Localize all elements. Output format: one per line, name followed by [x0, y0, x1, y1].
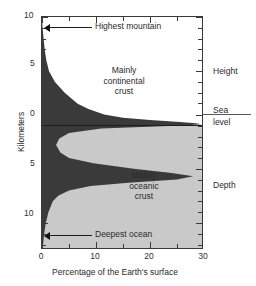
- y-tick-label-5-down: 5: [30, 159, 35, 168]
- height-region-label: Height: [213, 66, 238, 76]
- y-tick-right-minor: [198, 137, 202, 138]
- y-tick-minor: [42, 180, 46, 181]
- hypsometric-curve-figure: 10 5 0 5 10 Kilometers: [0, 0, 256, 286]
- x-tick-minor: [69, 244, 70, 248]
- y-tick-minor: [42, 158, 46, 159]
- annotation-leader-line: [49, 27, 92, 28]
- highest-mountain-label: Highest mountain: [95, 21, 161, 31]
- plot-area: Mainly continental crust Mainly oceanic …: [41, 16, 203, 249]
- x-axis-label: Percentage of the Earth's surface: [52, 267, 178, 277]
- highest-mountain-annotation: Highest mountain: [44, 23, 194, 32]
- y-tick-minor: [42, 82, 46, 83]
- y-tick-right-minor: [198, 60, 202, 61]
- x-tick-minor: [123, 244, 124, 248]
- y-tick-right-minor: [198, 103, 202, 104]
- y-tick-label-10-up: 10: [24, 11, 33, 20]
- y-tick-right-major: [196, 169, 202, 170]
- y-tick-right-minor: [198, 82, 202, 83]
- y-tick-right-major: [196, 71, 202, 72]
- oceanic-crust-label: Mainly oceanic crust: [103, 170, 185, 202]
- x-tick-top-minor: [69, 17, 70, 21]
- y-axis-label: Kilometers: [16, 112, 26, 152]
- y-tick-right-minor: [198, 180, 202, 181]
- x-tick-minor: [177, 244, 178, 248]
- x-tick-major-0: [42, 242, 43, 248]
- x-tick-top-minor: [177, 17, 178, 21]
- y-tick-minor: [42, 201, 46, 202]
- y-tick-right-minor: [198, 201, 202, 202]
- y-tick-right-minor: [198, 245, 202, 246]
- y-tick-major-5down: [42, 169, 48, 170]
- y-tick-right-minor: [198, 93, 202, 94]
- y-tick-minor: [42, 60, 46, 61]
- deepest-ocean-label: Deepest ocean: [95, 229, 152, 239]
- y-tick-right-minor: [198, 49, 202, 50]
- y-tick-major-0: [42, 115, 48, 116]
- x-tick-top-major: [203, 17, 204, 23]
- y-tick-right-major: [196, 17, 202, 18]
- y-tick-minor: [42, 212, 46, 213]
- y-tick-minor: [42, 147, 46, 148]
- sea-level-label-line1: Sea: [213, 105, 228, 115]
- y-tick-minor: [42, 137, 46, 138]
- x-tick-major-30: [203, 242, 204, 248]
- y-tick-minor: [42, 191, 46, 192]
- deepest-ocean-annotation: Deepest ocean: [44, 231, 194, 240]
- y-tick-right-minor: [198, 126, 202, 127]
- x-tick-major-20: [150, 242, 151, 248]
- y-tick-label-10-down: 10: [24, 209, 33, 218]
- sea-level-line-inner: [42, 125, 202, 126]
- x-tick-label-10: 10: [87, 252, 103, 261]
- hypsometric-curve-fill: [42, 17, 203, 249]
- y-tick-right-minor: [198, 158, 202, 159]
- y-tick-minor: [42, 93, 46, 94]
- sea-level-label-line2: level: [213, 117, 230, 127]
- x-tick-major-10: [96, 242, 97, 248]
- x-tick-label-30: 30: [195, 252, 211, 261]
- y-tick-right-minor: [198, 234, 202, 235]
- x-tick-label-0: 0: [34, 252, 48, 261]
- y-tick-minor: [42, 103, 46, 104]
- y-tick-minor: [42, 49, 46, 50]
- y-tick-right-minor: [198, 39, 202, 40]
- y-tick-right-minor: [198, 28, 202, 29]
- y-tick-minor: [42, 39, 46, 40]
- annotation-leader-line: [49, 235, 92, 236]
- x-tick-label-20: 20: [141, 252, 157, 261]
- y-tick-major-5up: [42, 71, 48, 72]
- y-tick-major-10down: [42, 223, 48, 224]
- continental-crust-label: Mainly continental crust: [83, 65, 165, 97]
- y-tick-right-major: [196, 223, 202, 224]
- y-tick-right-major: [196, 115, 202, 116]
- y-tick-label-5-up: 5: [30, 59, 35, 68]
- x-tick-top-major: [42, 17, 43, 23]
- y-tick-right-minor: [198, 191, 202, 192]
- y-tick-right-minor: [198, 212, 202, 213]
- depth-region-label: Depth: [213, 180, 236, 190]
- y-tick-right-minor: [198, 147, 202, 148]
- y-tick-minor: [42, 126, 46, 127]
- y-tick-label-0: 0: [30, 109, 35, 118]
